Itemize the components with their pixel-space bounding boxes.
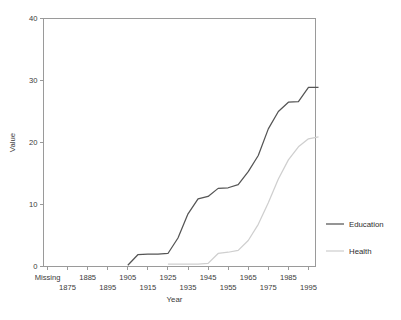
line-chart-svg: 010203040ValueMissing1875188518951905191… [0,0,401,320]
x-tick-label: 1995 [300,283,317,292]
x-tick-label: 1935 [180,283,197,292]
x-tick-label: 1975 [260,283,277,292]
y-tick-label: 20 [29,138,37,147]
x-tick-label: 1875 [59,283,76,292]
x-tick-label: 1985 [280,273,297,282]
y-tick-label: 40 [29,14,37,23]
series-line-education [128,87,319,265]
x-tick-label: 1925 [159,273,176,282]
x-tick-label: 1895 [99,283,116,292]
y-axis-title: Value [8,133,17,152]
y-tick-label: 0 [33,262,37,271]
x-axis-title: Year [167,295,183,304]
legend-label-health: Health [349,247,372,256]
x-tick-label: 1915 [139,283,156,292]
x-tick-label: 1965 [240,273,257,282]
series-line-health [168,137,319,264]
x-tick-label: 1885 [79,273,96,282]
x-tick-label: 1945 [200,273,217,282]
plot-frame [44,19,316,267]
x-tick-label: 1955 [220,283,237,292]
y-tick-label: 10 [29,200,37,209]
chart-figure: 010203040ValueMissing1875188518951905191… [0,0,401,320]
legend-label-education: Education [349,220,384,229]
y-tick-label: 30 [29,76,37,85]
x-tick-label: Missing [35,273,61,282]
x-tick-label: 1905 [119,273,136,282]
